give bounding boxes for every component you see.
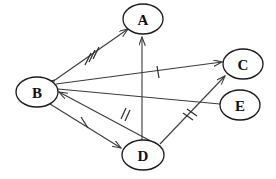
edge-b-d [50,104,121,148]
node-c-label: C [238,57,249,73]
diagram-canvas: A B C D E [0,0,276,179]
edge-d-c [160,76,225,144]
node-b[interactable]: B [16,77,58,107]
graph-svg: A B C D E [0,0,276,179]
edge-b-c-ticks [157,66,159,78]
edge-b-c [56,62,222,84]
edge-e-b [58,89,220,104]
node-a-label: A [138,12,149,28]
edge-d-c-line [160,76,225,144]
node-d-label: D [138,148,149,164]
edge-b-a-ticks [85,47,99,65]
edge-b-d-line [50,104,121,148]
edge-b-d-ticks [81,117,88,128]
edge-b-a-line [55,29,128,80]
node-e[interactable]: E [220,90,260,120]
node-b-label: B [32,85,42,101]
node-e-label: E [235,98,245,114]
edge-b-a [55,29,128,80]
edge-d-b-ticks [121,108,130,121]
edge-e-b-line [58,89,220,104]
node-c[interactable]: C [223,49,263,79]
edge-b-c-line [56,62,222,84]
node-d[interactable]: D [122,140,164,170]
node-a[interactable]: A [123,4,163,34]
